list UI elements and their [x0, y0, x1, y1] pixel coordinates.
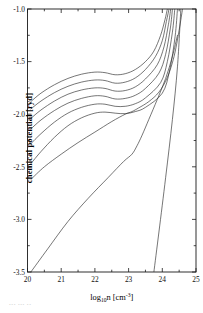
plot-frame	[28, 9, 197, 272]
figure-container: 202122232425 -1.0-1.5-2.0-2.5-3.0-3.5 lo…	[0, 0, 203, 313]
data-curve	[31, 9, 178, 164]
x-tick-label: 24	[159, 275, 167, 284]
x-tick-label: 23	[125, 275, 133, 284]
y-axis-title-text: chemical potential [ryd]	[22, 53, 36, 223]
x-tick-label: 25	[192, 275, 200, 284]
axes-group	[28, 9, 197, 272]
y-axis-title: chemical potential [ryd]	[22, 53, 36, 223]
data-curves-group	[31, 9, 183, 272]
data-curve	[31, 9, 171, 118]
x-tick-label: 21	[58, 275, 66, 284]
x-axis-title: log10n [cm-3]	[90, 292, 133, 304]
y-tick-label: -1.0	[13, 5, 25, 14]
data-curve	[31, 9, 175, 144]
x-tick-label: 22	[91, 275, 99, 284]
data-curve	[31, 9, 173, 129]
x-axis-title-group: log10n [cm-3]	[90, 292, 133, 304]
x-tick-labels-group: 202122232425	[24, 275, 200, 284]
data-curve	[154, 9, 181, 272]
scan-footer-artifact: ••• ••• ••	[9, 302, 32, 307]
y-tick-label: -3.5	[13, 268, 25, 277]
data-curve	[31, 35, 178, 272]
tick-marks-group	[28, 9, 197, 272]
